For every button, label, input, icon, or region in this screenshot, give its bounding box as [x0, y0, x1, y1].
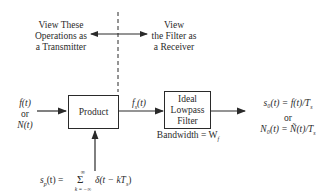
lowpass-filter-block: Ideal Lowpass Filter — [164, 91, 211, 129]
product-block: Product — [68, 95, 119, 129]
input-f: f(t) — [14, 98, 36, 109]
sp-arg: (t) = — [47, 175, 64, 185]
sampled-signal-label: fs(t) — [126, 98, 152, 113]
receiver-view-label: View the Filter as a Receiver — [148, 20, 200, 53]
transmitter-line-1: View These — [32, 20, 90, 31]
bandwidth-text: Bandwidth = W — [157, 130, 218, 140]
transmitter-line-3: a Transmitter — [32, 42, 90, 53]
sum-lower-limit: k = −∞ — [70, 184, 96, 192]
product-label: Product — [79, 107, 109, 118]
input-or: or — [14, 109, 36, 120]
sp-rhs: δ(t − kTs) — [95, 175, 131, 190]
output-or: or — [248, 113, 328, 124]
delta-close: ) — [128, 175, 131, 185]
output-signal-label: s₀(t) = f(t)/Ts or N₀(t) = Ñ(t)/Ts — [248, 98, 328, 139]
transmitter-line-2: Operations as — [32, 31, 90, 42]
input-signal-label: f(t) or N(t) — [14, 98, 36, 131]
sp-lhs: sp(t) = — [40, 175, 63, 190]
output-line-3: N₀(t) = Ñ(t)/T — [260, 124, 313, 134]
output-line-1-sub: s — [310, 104, 312, 110]
receiver-line-3: a Receiver — [148, 42, 200, 53]
receiver-line-2: the Filter as — [148, 31, 200, 42]
bandwidth-label: Bandwidth = Wf — [150, 130, 226, 145]
fs-arg: (t) — [137, 98, 146, 108]
input-n: N(t) — [14, 120, 36, 131]
filter-line-1: Ideal — [178, 94, 197, 105]
sampling-function-label: sp(t) = ∞ Σ k = −∞ δ(t − kTs) — [40, 170, 150, 192]
filter-line-3: Filter — [177, 116, 198, 127]
transmitter-view-label: View These Operations as a Transmitter — [32, 20, 90, 53]
receiver-line-1: View — [148, 20, 200, 31]
bandwidth-sub: f — [217, 136, 219, 142]
output-line-1: s₀(t) = f(t)/T — [264, 98, 311, 108]
output-line-3-sub: s — [313, 130, 315, 136]
filter-line-2: Lowpass — [171, 105, 205, 116]
delta-term: δ(t − kT — [95, 175, 126, 185]
